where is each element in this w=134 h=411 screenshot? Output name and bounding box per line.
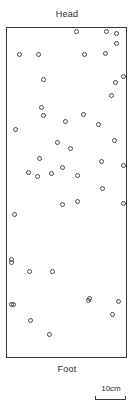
data-point <box>75 173 80 178</box>
data-point <box>99 159 104 164</box>
data-point <box>55 140 60 145</box>
data-point <box>9 260 14 265</box>
data-point <box>68 146 73 151</box>
data-point <box>74 29 79 34</box>
data-point <box>116 299 121 304</box>
data-point <box>49 171 54 176</box>
data-point <box>11 302 16 307</box>
data-point <box>121 74 126 79</box>
data-point <box>81 112 86 117</box>
data-point <box>37 156 42 161</box>
data-point <box>63 119 68 124</box>
data-point <box>82 52 87 57</box>
data-point <box>50 269 55 274</box>
data-point <box>41 77 46 82</box>
head-label: Head <box>0 9 134 20</box>
data-point <box>12 212 17 217</box>
data-point <box>39 105 44 110</box>
data-point <box>41 113 46 118</box>
data-point <box>27 269 32 274</box>
data-point <box>110 312 115 317</box>
data-point <box>113 80 118 85</box>
data-point <box>26 170 31 175</box>
data-point <box>121 201 126 206</box>
data-point <box>114 41 119 46</box>
scale-bar-label: 10cm <box>94 384 128 394</box>
data-point <box>17 52 22 57</box>
data-point <box>121 163 126 168</box>
data-point <box>86 298 91 303</box>
data-point <box>109 93 114 98</box>
plot-frame <box>6 27 127 358</box>
data-point <box>112 138 117 143</box>
data-point <box>103 51 108 56</box>
foot-label: Foot <box>0 364 134 375</box>
data-point <box>28 318 33 323</box>
data-point <box>35 174 40 179</box>
data-point <box>60 165 65 170</box>
scale-bar: 10cm <box>94 384 128 406</box>
data-point <box>114 31 119 36</box>
data-point <box>104 29 109 34</box>
data-point <box>75 199 80 204</box>
body-lesion-distribution-figure: Head Foot 10cm <box>0 0 134 411</box>
data-point <box>47 332 52 337</box>
scale-bar-rule <box>95 396 126 400</box>
data-point <box>36 52 41 57</box>
data-point <box>60 202 65 207</box>
data-point <box>13 127 18 132</box>
data-point <box>100 186 105 191</box>
data-point <box>96 122 101 127</box>
